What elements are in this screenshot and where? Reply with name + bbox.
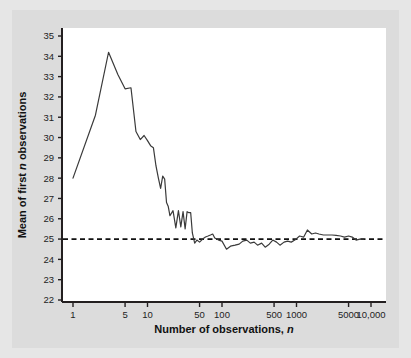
x-tick-label: 500 xyxy=(266,309,282,320)
x-tick-label: 50 xyxy=(194,309,205,320)
x-tick-label: 1 xyxy=(70,309,75,320)
x-tick-label: 100 xyxy=(214,309,230,320)
x-tick-label: 5 xyxy=(122,309,127,320)
y-tick-label: 28 xyxy=(43,173,54,184)
y-tick-label: 30 xyxy=(43,132,54,143)
y-tick-label: 25 xyxy=(43,233,54,244)
y-tick-label: 23 xyxy=(43,274,54,285)
chart-canvas: 2223242526272829303132333435 15105010050… xyxy=(0,0,411,358)
y-tick-label: 35 xyxy=(43,30,54,41)
y-tick-label: 24 xyxy=(43,254,54,265)
figure-container: 2223242526272829303132333435 15105010050… xyxy=(0,0,411,358)
x-tick-label: 1000 xyxy=(286,309,307,320)
x-tick-label: 10,000 xyxy=(356,309,385,320)
y-tick-label: 27 xyxy=(43,193,54,204)
y-tick-label: 26 xyxy=(43,213,54,224)
y-tick-label: 22 xyxy=(43,294,54,305)
y-tick-label: 31 xyxy=(43,112,54,123)
y-axis-ticks: 2223242526272829303132333435 xyxy=(43,30,62,305)
x-axis-ticks: 1510501005001000500010,000 xyxy=(70,302,385,320)
x-axis-title: Number of observations, n xyxy=(154,323,294,335)
plot-background xyxy=(62,28,386,302)
x-tick-label: 10 xyxy=(142,309,153,320)
y-tick-label: 34 xyxy=(43,51,54,62)
y-tick-label: 32 xyxy=(43,91,54,102)
y-tick-label: 29 xyxy=(43,152,54,163)
y-tick-label: 33 xyxy=(43,71,54,82)
y-axis-title: Mean of first n observations xyxy=(16,92,28,239)
